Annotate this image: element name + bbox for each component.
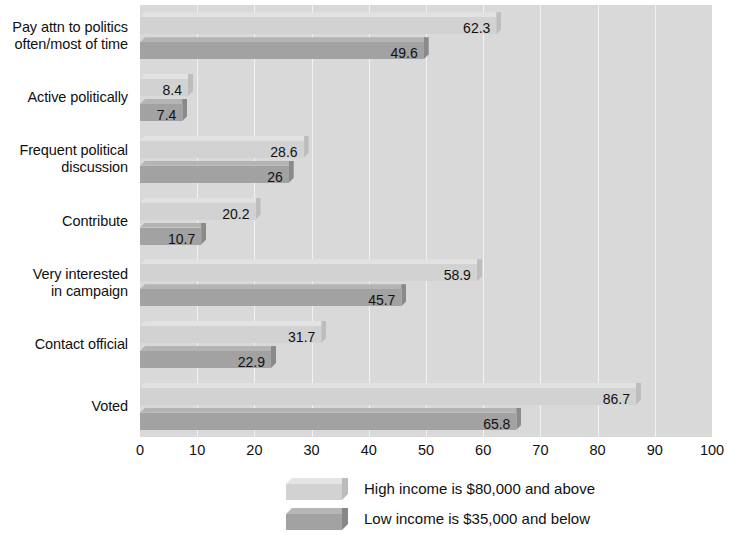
bar-high-income [140, 12, 501, 34]
x-axis-tick-label: 30 [304, 441, 320, 459]
legend-swatch-high-income-icon [286, 478, 348, 500]
category-label: Active politically [27, 89, 128, 106]
bar-value-label: 31.7 [288, 330, 315, 344]
bar-chart: 62.349.68.47.428.62620.210.758.945.731.7… [0, 0, 737, 542]
category-label: Frequent political discussion [19, 142, 128, 176]
gridline [312, 5, 313, 437]
x-axis-tick-labels: 0102030405060708090100 [140, 441, 712, 463]
bar-value-label: 49.6 [390, 46, 417, 60]
bar-value-label: 20.2 [222, 207, 249, 221]
x-axis-tick-label: 80 [590, 441, 606, 459]
x-axis-tick-label: 0 [136, 441, 144, 459]
plot-area: 62.349.68.47.428.62620.210.758.945.731.7… [140, 5, 712, 437]
x-axis-tick-label: 20 [246, 441, 262, 459]
gridline [197, 5, 198, 437]
bar-value-label: 58.9 [444, 268, 471, 282]
x-axis-tick-label: 90 [647, 441, 663, 459]
x-axis-tick-label: 60 [475, 441, 491, 459]
gridline [369, 5, 370, 437]
bar-value-label: 22.9 [238, 355, 265, 369]
category-label: Pay attn to politics often/most of time [12, 19, 128, 53]
category-label: Very interested in campaign [33, 266, 128, 300]
bar-low-income [140, 284, 406, 306]
bar-value-label: 8.4 [163, 83, 182, 97]
category-label: Contribute [62, 213, 128, 230]
bar-high-income [140, 383, 641, 405]
bar-value-label: 28.6 [270, 145, 297, 159]
bar-value-label: 45.7 [368, 293, 395, 307]
legend-label-high-income: High income is $80,000 and above [364, 479, 595, 499]
bar-value-label: 26 [267, 170, 283, 184]
bar-value-label: 7.4 [157, 108, 176, 122]
bar-value-label: 65.8 [483, 417, 510, 431]
legend-item-low-income: Low income is $35,000 and below [286, 506, 706, 536]
bar-low-income [140, 408, 521, 430]
legend-label-low-income: Low income is $35,000 and below [364, 509, 590, 529]
gridline [254, 5, 255, 437]
category-label: Contact official [35, 336, 128, 353]
x-axis-tick-label: 10 [189, 441, 205, 459]
chart-legend: High income is $80,000 and above Low inc… [286, 476, 706, 536]
category-label: Voted [91, 398, 128, 415]
gridline [483, 5, 484, 437]
gridline [655, 5, 656, 437]
bar-low-income [140, 37, 429, 59]
x-axis-tick-label: 40 [361, 441, 377, 459]
gridline [540, 5, 541, 437]
legend-swatch-low-income-icon [286, 508, 348, 530]
category-axis-labels: Pay attn to politics often/most of timeA… [0, 5, 134, 437]
bar-value-label: 62.3 [463, 21, 490, 35]
legend-item-high-income: High income is $80,000 and above [286, 476, 706, 506]
gridline [598, 5, 599, 437]
x-axis-tick-label: 70 [532, 441, 548, 459]
bar-value-label: 86.7 [603, 392, 630, 406]
x-axis-tick-label: 100 [700, 441, 724, 459]
bar-value-label: 10.7 [168, 232, 195, 246]
x-axis-tick-label: 50 [418, 441, 434, 459]
gridline [426, 5, 427, 437]
bar-high-income [140, 259, 482, 281]
